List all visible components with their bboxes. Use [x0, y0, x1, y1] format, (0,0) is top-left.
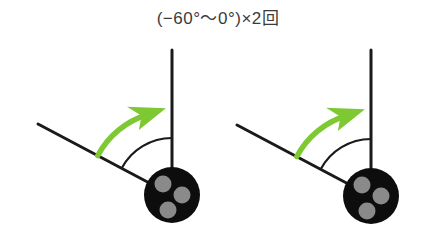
swing-direction-arrow-right [297, 116, 347, 157]
pendulum-diagram-left [0, 0, 218, 247]
pendulum-svg-right [199, 0, 417, 247]
swing-direction-arrow-left [98, 115, 148, 156]
bob-dot-upper-left [155, 176, 172, 193]
pendulum-diagram-right [199, 0, 417, 247]
bob-dot-lower-left [160, 202, 177, 219]
figure-canvas: (−60°〜0°)×2回 [0, 0, 436, 247]
bob-dot-right [373, 188, 390, 205]
bob-dot-lower-left [359, 203, 376, 220]
angle-arc-left [122, 138, 172, 168]
pendulum-group-left [38, 50, 200, 223]
pendulum-group-right [237, 50, 399, 224]
bob-dot-right [174, 187, 191, 204]
bob-dot-upper-left [354, 177, 371, 194]
angle-arc-right [321, 139, 371, 169]
pendulum-svg-left [0, 0, 218, 247]
